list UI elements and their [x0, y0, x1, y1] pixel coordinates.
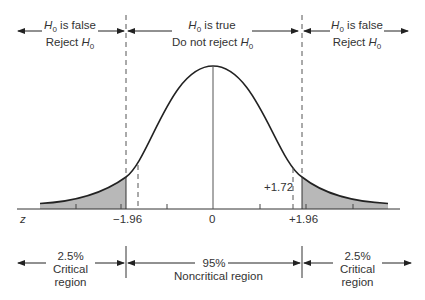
left-critical-region-label: 2.5% Critical region [46, 250, 95, 289]
center-region-label: H0 is true Do not reject H0 [172, 19, 252, 53]
z-axis-variable: z [20, 213, 26, 225]
left-region-label: H0 is false Reject H0 [42, 19, 98, 53]
left-critical-shade [40, 177, 126, 209]
center-value: 0 [209, 213, 215, 225]
right-critical-shade [302, 177, 388, 209]
right-region-label: H0 is false Reject H0 [330, 19, 384, 53]
bell-curve [40, 66, 388, 204]
right-critical-value: +1.96 [289, 213, 318, 225]
test-statistic-value: +1.72 [264, 181, 293, 193]
noncritical-region-label: 95% Noncritical region [174, 257, 254, 283]
right-critical-region-label: 2.5% Critical region [333, 250, 382, 289]
left-critical-value: −1.96 [113, 213, 142, 225]
